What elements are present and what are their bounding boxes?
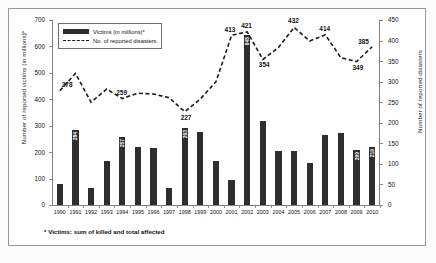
y-axis-title-right: Number of reported disasters <box>416 17 423 167</box>
y-axis-title-left: Number of reported victims (in millions)… <box>20 13 27 163</box>
x-tick <box>349 205 350 208</box>
x-tick <box>193 205 194 208</box>
y-tick-right <box>380 164 383 165</box>
x-tick-label: 2006 <box>302 209 318 215</box>
x-tick <box>286 205 287 208</box>
line-value-label: 349 <box>353 64 364 71</box>
chart-container: Number of reported victims (in millions)… <box>0 0 436 263</box>
x-tick-label: 1998 <box>177 209 193 215</box>
x-tick-label: 1990 <box>52 209 68 215</box>
legend-swatch-bars-icon <box>63 29 89 34</box>
x-tick <box>271 205 272 208</box>
x-tick <box>318 205 319 208</box>
x-tick <box>208 205 209 208</box>
x-tick <box>146 205 147 208</box>
x-tick-label: 1997 <box>161 209 177 215</box>
x-tick <box>114 205 115 208</box>
line-value-label: 354 <box>259 61 270 68</box>
line-value-label: 413 <box>225 26 236 33</box>
line-value-label: 414 <box>319 25 330 32</box>
legend-label-line: No. of reported disasters <box>93 38 156 44</box>
y-tick-label-right: 200 <box>388 119 412 126</box>
y-tick-right <box>380 143 383 144</box>
y-tick-right <box>380 20 383 21</box>
x-tick-label: 1991 <box>68 209 84 215</box>
y-tick-label-left: 100 <box>23 175 45 182</box>
chart-footnote: * Victims: sum of killed and total affec… <box>44 228 165 235</box>
x-tick-label: 2007 <box>318 209 334 215</box>
y-tick-right <box>380 184 383 185</box>
line-value-label: 432 <box>288 17 299 24</box>
x-tick-label: 1993 <box>99 209 115 215</box>
y-tick-right <box>380 41 383 42</box>
y-tick-right <box>380 82 383 83</box>
y-tick-label-right: 150 <box>388 140 412 147</box>
x-tick-label: 2000 <box>208 209 224 215</box>
x-tick <box>68 205 69 208</box>
x-tick <box>333 205 334 208</box>
y-tick-label-left: 700 <box>23 16 45 23</box>
x-tick <box>177 205 178 208</box>
x-tick-label: 1995 <box>130 209 146 215</box>
y-tick-label-right: 300 <box>388 78 412 85</box>
y-tick-label-left: 0 <box>23 201 45 208</box>
line-value-label: 227 <box>181 114 192 121</box>
line-value-label: 421 <box>241 22 252 29</box>
x-tick-label: 1992 <box>83 209 99 215</box>
x-tick-label: 2002 <box>239 209 255 215</box>
axis-line-bottom <box>52 205 380 206</box>
x-tick-label: 2003 <box>255 209 271 215</box>
line-value-label: 278 <box>62 81 73 88</box>
y-tick-label-left: 400 <box>23 96 45 103</box>
legend-swatch-line-icon <box>63 40 89 41</box>
x-tick <box>239 205 240 208</box>
x-tick <box>255 205 256 208</box>
y-tick-label-right: 400 <box>388 37 412 44</box>
y-tick-label-right: 0 <box>388 201 412 208</box>
y-tick-label-left: 200 <box>23 149 45 156</box>
legend-item-bars: Victims (in millions)* <box>63 27 156 36</box>
chart-legend: Victims (in millions)* No. of reported d… <box>58 23 162 49</box>
y-tick-right <box>380 123 383 124</box>
legend-label-bars: Victims (in millions)* <box>93 29 145 35</box>
x-tick <box>380 205 381 208</box>
x-tick <box>161 205 162 208</box>
line-value-label: 259 <box>116 89 127 96</box>
x-tick-label: 2009 <box>349 209 365 215</box>
y-tick-label-right: 250 <box>388 99 412 106</box>
x-tick-label: 2008 <box>333 209 349 215</box>
legend-item-line: No. of reported disasters <box>63 36 156 45</box>
x-tick-label: 2010 <box>364 209 380 215</box>
x-tick-label: 1994 <box>114 209 130 215</box>
x-tick <box>99 205 100 208</box>
y-tick-label-right: 100 <box>388 160 412 167</box>
y-tick-right <box>380 102 383 103</box>
x-tick <box>364 205 365 208</box>
x-tick <box>130 205 131 208</box>
x-tick-label: 2005 <box>286 209 302 215</box>
y-tick-label-right: 50 <box>388 181 412 188</box>
x-tick-label: 2004 <box>271 209 287 215</box>
y-tick-label-right: 450 <box>388 16 412 23</box>
x-tick <box>302 205 303 208</box>
x-tick-label: 1996 <box>146 209 162 215</box>
x-tick-label: 2001 <box>224 209 240 215</box>
x-tick <box>224 205 225 208</box>
line-value-label: 385 <box>358 38 369 45</box>
y-tick-label-right: 350 <box>388 58 412 65</box>
x-tick-label: 1999 <box>193 209 209 215</box>
y-tick-label-left: 500 <box>23 69 45 76</box>
y-tick-left <box>49 205 52 206</box>
x-tick <box>83 205 84 208</box>
y-tick-label-left: 300 <box>23 122 45 129</box>
y-tick-right <box>380 61 383 62</box>
y-tick-label-left: 600 <box>23 43 45 50</box>
